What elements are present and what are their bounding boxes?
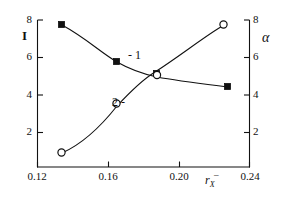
data-point-s1-3 [225,84,231,90]
x-axis-title: rX− [205,170,219,189]
right-axis-ticks [244,20,250,133]
x-tick-label-024: 0.24 [233,170,267,182]
chart-figure: I α rX− 8 6 4 2 8 6 4 2 0.12 0.16 0.20 0… [0,0,288,197]
left-axis-ticks [38,20,44,133]
right-tick-label-6: 6 [253,50,267,62]
series-2-annotation: 2 - [112,95,125,110]
x-tick-label-016: 0.16 [91,170,125,182]
right-tick-label-8: 8 [253,13,267,25]
left-axis-title: I [22,28,27,44]
markers-series-2 [58,21,227,156]
x-axis-ticks [38,162,250,168]
data-point-s1-1 [114,59,120,65]
right-axis-title: α [262,30,269,46]
left-tick-label-2: 2 [18,125,32,137]
left-tick-label-6: 6 [18,50,32,62]
x-tick-label-020: 0.20 [162,170,196,182]
x-axis-title-minus: − [214,170,220,181]
plot-canvas [0,0,288,197]
series-1-annotation: - 1 [128,48,141,63]
left-tick-label-8: 8 [18,13,32,25]
data-point-s2-0 [58,149,65,156]
x-tick-label-012: 0.12 [20,170,54,182]
data-point-s2-3 [220,21,227,28]
data-point-s2-2 [153,71,160,78]
curve-series-2 [62,25,224,153]
axis-frame [37,20,250,168]
curve-series-1 [62,25,228,87]
right-tick-label-4: 4 [253,88,267,100]
data-point-s1-0 [59,22,65,28]
left-tick-label-4: 4 [18,88,32,100]
right-tick-label-2: 2 [253,125,267,137]
x-axis-title-subscript: X [210,180,215,189]
